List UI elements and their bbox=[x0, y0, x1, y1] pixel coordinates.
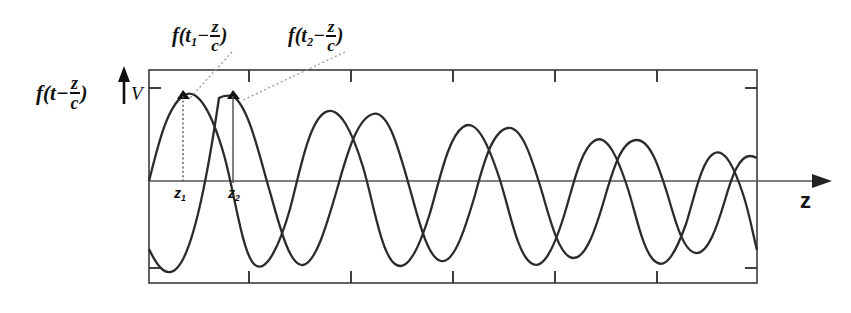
callout-label-f-t1: f(t1−zc) bbox=[172, 18, 228, 54]
f-axis-arrow bbox=[118, 66, 130, 104]
bottom-axis-ticks bbox=[249, 271, 657, 283]
x-axis-label: z bbox=[800, 190, 811, 212]
callout-f2-close: ) bbox=[337, 24, 344, 46]
callout-f1-open: (t bbox=[179, 24, 191, 46]
y-axis-label-denominator: c bbox=[70, 94, 80, 112]
y-axis-label: f(t−zc) bbox=[36, 74, 88, 112]
y-axis-label-open: (t bbox=[43, 81, 56, 105]
y-axis-label-minus: − bbox=[56, 81, 69, 105]
amplitude-label: V bbox=[131, 84, 143, 103]
callout-f2-minus: − bbox=[313, 24, 325, 46]
y-axis-label-fraction: zc bbox=[70, 74, 80, 112]
z1-tick-label-base: z bbox=[174, 185, 181, 201]
wave-curve-1 bbox=[149, 94, 757, 267]
top-axis-ticks bbox=[249, 70, 657, 82]
y-axis-label-close: ) bbox=[81, 81, 88, 105]
z1-tick-label-subscript: 1 bbox=[181, 193, 186, 203]
leader-line-f2 bbox=[243, 52, 345, 100]
callout-f2-open: (t bbox=[295, 24, 307, 46]
z1-tick-label: z1 bbox=[174, 186, 186, 202]
callout-f1-fraction: zc bbox=[210, 18, 220, 54]
leader-line-f1 bbox=[190, 52, 232, 98]
callout-f2-f: f bbox=[288, 24, 295, 46]
callout-f1-f: f bbox=[172, 24, 179, 46]
wave-curve-2 bbox=[149, 96, 757, 273]
figure-canvas bbox=[0, 0, 851, 313]
callout-f1-denominator: c bbox=[210, 37, 220, 54]
callout-f2-denominator: c bbox=[326, 37, 336, 54]
y-axis-label-numerator: z bbox=[70, 74, 80, 94]
z2-tick-label-base: z bbox=[228, 185, 235, 201]
callout-f1-numerator: z bbox=[210, 18, 220, 37]
wave-figure: f(t−zc) V f(t1−zc) f(t2−zc) z1 z2 z bbox=[0, 0, 851, 313]
amplitude-ticks bbox=[149, 88, 757, 268]
peak-markers bbox=[177, 90, 240, 99]
callout-f1-close: ) bbox=[221, 24, 228, 46]
z2-tick-label-subscript: 2 bbox=[235, 193, 240, 203]
y-axis-label-f: f bbox=[36, 81, 43, 105]
callout-f2-numerator: z bbox=[326, 18, 336, 37]
callout-label-f-t2: f(t2−zc) bbox=[288, 18, 344, 54]
z2-tick-label: z2 bbox=[228, 186, 240, 202]
callout-f1-minus: − bbox=[197, 24, 209, 46]
callout-f2-fraction: zc bbox=[326, 18, 336, 54]
